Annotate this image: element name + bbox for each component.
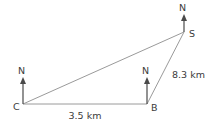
north-arrows	[20, 14, 187, 104]
north-labels: N N N	[18, 2, 186, 76]
measurement-label-bs: 8.3 km	[172, 69, 205, 80]
vertex-label-s: S	[189, 28, 195, 39]
north-arrow-at-s	[181, 14, 187, 32]
measurement-label-cb: 3.5 km	[69, 110, 102, 121]
north-arrow-head-icon	[144, 77, 150, 84]
north-arrow-head-icon	[181, 14, 187, 21]
north-label-at-s: N	[179, 2, 186, 13]
diagram-canvas: N N N C B S 3.5 km 8.3 km	[0, 0, 209, 123]
north-arrow-at-c	[20, 77, 26, 104]
vertex-label-b: B	[151, 102, 158, 113]
vertex-labels: C B S	[13, 28, 195, 113]
edge-b-to-s	[147, 32, 184, 104]
north-arrow-head-icon	[20, 77, 26, 84]
north-label-at-b: N	[142, 65, 149, 76]
edge-c-to-s	[23, 32, 184, 104]
bearings-triangle-diagram: N N N C B S 3.5 km 8.3 km	[0, 0, 209, 123]
north-label-at-c: N	[18, 65, 25, 76]
measurement-labels: 3.5 km 8.3 km	[69, 69, 205, 121]
triangle-edges	[23, 32, 184, 104]
vertex-label-c: C	[13, 101, 20, 112]
